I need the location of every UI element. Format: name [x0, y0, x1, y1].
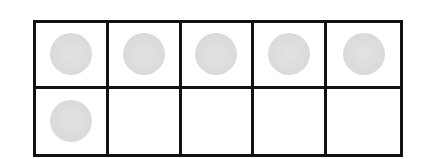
counter-dot-icon	[268, 33, 310, 75]
ten-frame-cell	[36, 89, 109, 155]
ten-frame-cell	[327, 23, 400, 89]
ten-frame-cell	[254, 23, 327, 89]
ten-frame-cell	[182, 89, 255, 155]
counter-dot-icon	[123, 33, 165, 75]
ten-frame-cell	[182, 23, 255, 89]
counter-dot-icon	[50, 100, 92, 142]
counter-dot-icon	[343, 33, 385, 75]
ten-frame-cell	[327, 89, 400, 155]
ten-frame-cell	[109, 23, 182, 89]
ten-frame-cell	[36, 23, 109, 89]
ten-frame	[33, 20, 403, 157]
ten-frame-cell	[109, 89, 182, 155]
counter-dot-icon	[195, 33, 237, 75]
counter-dot-icon	[50, 33, 92, 75]
ten-frame-cell	[254, 89, 327, 155]
